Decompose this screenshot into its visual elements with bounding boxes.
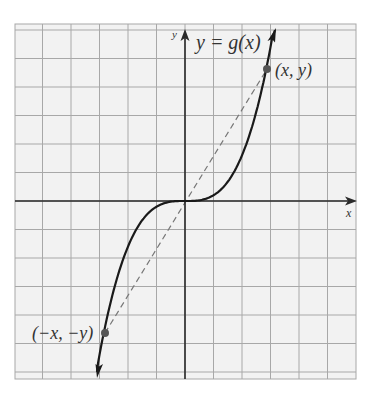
function-title: y = g(x) [194, 31, 261, 54]
point-label-negative: (−x, −y) [32, 323, 93, 344]
point-positive [263, 65, 271, 73]
odd-function-graph: y x y = g(x) (x, y) (−x, −y) [0, 0, 373, 399]
point-negative [101, 329, 109, 337]
point-label-positive: (x, y) [275, 60, 312, 81]
x-axis-label: x [345, 206, 352, 220]
y-axis-label: y [171, 28, 177, 40]
